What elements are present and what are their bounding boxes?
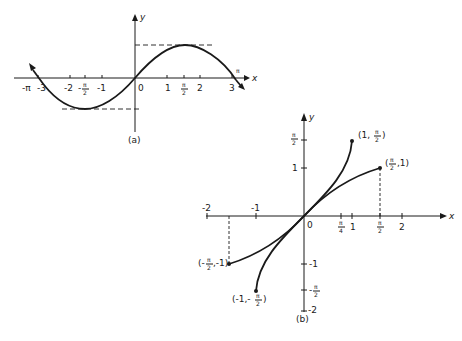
ytick-neg1: -1 [309,259,318,269]
y-axis-label: y [308,112,315,122]
curve-arrow-left-icon [29,63,36,71]
label-neg-pi-half-neg1: (- π 2 ,-1) [198,256,228,271]
tick-two: 2 [399,222,405,232]
tick-one: 1 [165,83,171,93]
tick-three: 3 [229,83,235,93]
ytick-one: 1 [292,163,298,173]
figure: x y -π -3 -2 - π 2 -1 0 1 π 2 2 3 π [0,0,462,341]
svg-text:π: π [375,128,379,135]
svg-text:): ) [263,294,267,304]
svg-text:2: 2 [256,300,260,307]
svg-text:2: 2 [207,264,211,271]
ytick-neg-pi-half-num: π [314,283,318,290]
tick-pi-half-num: π [182,81,186,88]
svg-text:π: π [207,256,211,263]
label-pi-half-1: ( π 2 ,1) [385,156,409,171]
svg-text:2: 2 [390,164,394,171]
tick-pi-quarter-num: π [339,219,343,226]
svg-text:π: π [390,156,394,163]
ytick-neg2: -2 [308,305,317,315]
tick-neg-pi: -π [22,83,31,93]
svg-text:2: 2 [375,136,379,143]
label-neg1-neg-pi-half: (-1,- π 2 ) [232,292,267,307]
label-1-pi-half: (1, π 2 ) [358,128,386,143]
panel-a: x y -π -3 -2 - π 2 -1 0 1 π 2 2 3 π [14,12,258,145]
panel-b-caption: (b) [296,314,309,324]
ytick-pi-half-num: π [292,131,296,138]
x-axis-label: x [251,73,258,83]
svg-text:): ) [382,130,386,140]
ytick-pi-half-den: 2 [292,139,296,146]
panel-a-caption: (a) [128,135,141,145]
tick-pi-quarter-den: 4 [339,227,343,234]
tick-pi-half-den: 2 [378,227,382,234]
panel-b: x y -2 -1 0 π 4 1 π 2 2 π 2 [198,112,455,324]
x-axis-arrow-icon [244,75,250,81]
ytick-neg-pi-half-sign: - [309,285,312,295]
tick-zero: 0 [138,83,144,93]
svg-text:(-: (- [198,258,205,268]
svg-text:,1): ,1) [397,158,409,168]
tick-neg2: -2 [202,203,211,213]
y-axis-arrow-icon [301,113,307,121]
svg-text:(1,: (1, [358,130,370,140]
tick-neg-pi-half-num: π [83,81,87,88]
svg-text:(-1,-: (-1,- [232,294,251,304]
y-axis-label: y [139,12,146,22]
tick-neg1: -1 [251,203,260,213]
svg-text:(: ( [385,158,389,168]
sine-curve [44,45,236,109]
tick-neg-pi-half-sign: - [78,83,81,93]
x-axis-label: x [448,211,455,221]
tick-pi: π [236,67,240,74]
svg-text:π: π [256,292,260,299]
point-1-pi-half [350,139,354,143]
tick-neg2: -2 [64,83,73,93]
tick-neg-pi-half-den: 2 [83,89,87,96]
tick-zero: 0 [307,220,313,230]
tick-neg1: -1 [97,83,106,93]
ytick-neg-pi-half-den: 2 [314,291,318,298]
tick-pi-half-num: π [378,219,382,226]
x-axis-arrow-icon [440,213,447,219]
tick-pi-half-den: 2 [182,89,186,96]
tick-two: 2 [197,83,203,93]
y-axis-arrow-icon [132,14,138,21]
tick-one: 1 [350,222,356,232]
point-pi-half-1 [378,166,382,170]
svg-text:,-1): ,-1) [213,258,228,268]
